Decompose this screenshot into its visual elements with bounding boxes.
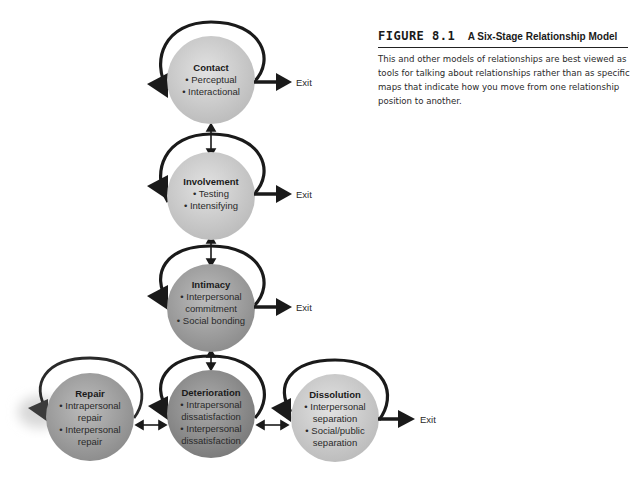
stage-item: commitment — [185, 303, 237, 314]
stage-item: separation — [313, 437, 357, 448]
figure-title: A Six-Stage Relationship Model — [468, 31, 618, 42]
stage-item: • Social/public — [305, 425, 365, 436]
stage-item: • Interpersonal — [59, 424, 120, 435]
stage-item: • Interpersonal — [180, 423, 241, 434]
stage-contact: Exit Contact • Perceptual • Interactiona… — [147, 22, 312, 124]
arrow-involvement-intimacy — [207, 236, 215, 266]
stage-item: • Social bonding — [177, 315, 245, 326]
stage-item: dissatisfaction — [181, 435, 241, 446]
stage-item: • Testing — [193, 188, 229, 199]
loop-arrowhead-icon — [147, 73, 168, 98]
figure-caption: FIGURE 8.1 A Six-Stage Relationship Mode… — [378, 26, 628, 108]
stage-item: • Interpersonal — [304, 401, 365, 412]
stage-item: separation — [313, 413, 357, 424]
arrow-intimacy-deterioration — [207, 350, 215, 370]
stage-title: Involvement — [183, 176, 239, 187]
stage-item: • Intrapersonal — [180, 399, 241, 410]
stage-item: • Interpersonal — [180, 291, 241, 302]
stage-item: repair — [78, 436, 102, 447]
arrow-deterioration-dissolution — [257, 421, 288, 429]
stage-title: Deterioration — [181, 387, 240, 398]
stage-item: • Perceptual — [185, 74, 236, 85]
stage-item: dissatisfaction — [181, 411, 241, 422]
stage-item: • Intrapersonal — [59, 400, 120, 411]
loop-arrowhead-icon — [147, 175, 168, 200]
stage-item: • Intensifying — [184, 200, 238, 211]
loop-arrowhead-icon — [271, 398, 291, 422]
arrow-repair-deterioration — [136, 421, 166, 429]
stage-involvement: Exit Involvement • Testing • Intensifyin… — [147, 134, 312, 240]
caption-title-row: FIGURE 8.1 A Six-Stage Relationship Mode… — [378, 26, 628, 48]
figure-label: FIGURE 8.1 — [378, 29, 455, 43]
stage-title: Intimacy — [192, 279, 231, 290]
stage-item: repair — [78, 412, 102, 423]
stage-dissolution: Exit Dissolution • Interpersonal separat… — [271, 360, 436, 462]
exit-label: Exit — [296, 189, 312, 200]
stage-item: • Interactional — [182, 86, 240, 97]
stage-title: Repair — [75, 388, 105, 399]
stage-deterioration: Deterioration • Intrapersonal dissatisfa… — [148, 356, 264, 458]
loop-arrowhead-icon — [147, 285, 168, 310]
arrow-contact-involvement — [207, 124, 215, 156]
stage-repair: Repair • Intrapersonal repair • Interper… — [18, 358, 142, 461]
stage-title: Contact — [193, 62, 229, 73]
stage-title: Dissolution — [309, 389, 361, 400]
exit-label: Exit — [420, 414, 436, 425]
exit-label: Exit — [296, 77, 312, 88]
stage-intimacy: Exit Intimacy • Interpersonal commitment… — [147, 246, 312, 352]
loop-arrowhead-icon — [148, 396, 168, 420]
figure-description: This and other models of relationships a… — [378, 52, 643, 108]
exit-label: Exit — [296, 302, 312, 313]
